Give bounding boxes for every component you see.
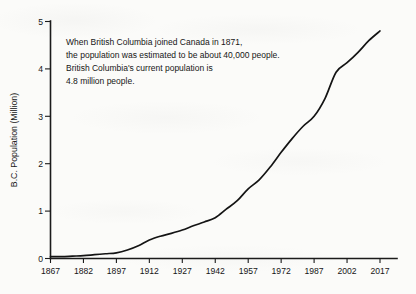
x-tick-label: 1882: [74, 266, 93, 276]
x-tick-label: 1912: [140, 266, 159, 276]
x-tick-label: 1867: [41, 266, 60, 276]
x-tick-label: 1987: [305, 266, 324, 276]
x-tick-label: 2002: [337, 266, 356, 276]
population-line-chart: B.C. Population (Million) 012345 1867188…: [0, 0, 416, 294]
y-tick-label: 0: [38, 254, 43, 264]
y-tick-label: 5: [38, 17, 43, 27]
x-axis-ticks: 1867188218971912192719421957197219872002…: [41, 259, 390, 277]
x-tick-label: 1942: [206, 266, 225, 276]
annotation-line-3: British Columbia's current population is: [66, 63, 213, 73]
x-tick-label: 1927: [173, 266, 192, 276]
annotation-line-1: When British Columbia joined Canada in 1…: [66, 37, 242, 47]
y-axis-title: B.C. Population (Million): [9, 93, 19, 187]
x-tick-label: 1957: [239, 266, 258, 276]
y-tick-label: 1: [38, 206, 43, 216]
y-axis-ticks: 012345: [38, 17, 50, 264]
x-tick-label: 2017: [370, 266, 389, 276]
y-tick-label: 4: [38, 64, 43, 74]
x-tick-label: 1897: [107, 266, 126, 276]
chart-page: B.C. Population (Million) 012345 1867188…: [0, 0, 416, 294]
y-tick-label: 3: [38, 112, 43, 122]
y-tick-label: 2: [38, 159, 43, 169]
annotation-line-2: the population was estimated to be about…: [66, 50, 280, 60]
chart-annotation: When British Columbia joined Canada in 1…: [66, 37, 280, 86]
x-tick-label: 1972: [272, 266, 291, 276]
annotation-line-4: 4.8 million people.: [66, 76, 135, 86]
